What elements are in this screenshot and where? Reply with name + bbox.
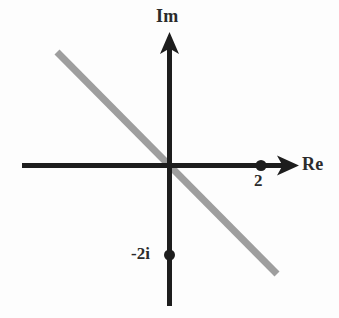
point-marker-2 [256, 160, 267, 171]
point-marker-minus-2i [164, 250, 175, 261]
point-label-minus-2i: -2i [131, 245, 150, 262]
complex-plane-diagram: Im Re 2 -2i [0, 0, 339, 318]
complex-plane-svg [0, 0, 339, 318]
real-axis-label: Re [302, 155, 323, 173]
imaginary-axis-label: Im [156, 7, 178, 25]
point-label-2: 2 [254, 172, 263, 189]
